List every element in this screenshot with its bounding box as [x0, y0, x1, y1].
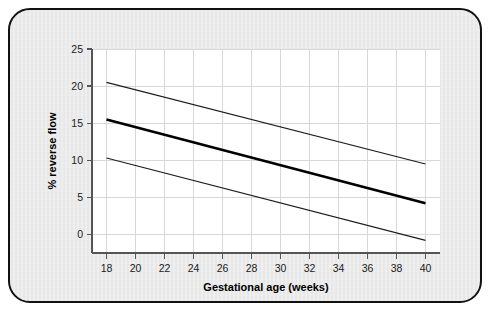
x-axis-tick-labels: 182022242628303234363840: [101, 262, 432, 274]
chart-area: 0510152025 182022242628303234363840 Gest…: [10, 10, 482, 303]
y-axis-ticks: [87, 49, 92, 234]
x-tick-label: 22: [159, 262, 171, 274]
plot-background: [92, 49, 440, 253]
y-axis-title: % reverse flow: [46, 112, 58, 189]
x-tick-label: 34: [333, 262, 345, 274]
y-tick-label: 0: [77, 228, 83, 240]
y-tick-label: 20: [71, 80, 83, 92]
x-tick-label: 18: [101, 262, 113, 274]
x-tick-label: 28: [246, 262, 258, 274]
x-tick-label: 20: [130, 262, 142, 274]
y-tick-label: 10: [71, 154, 83, 166]
x-tick-label: 36: [362, 262, 374, 274]
x-tick-label: 40: [420, 262, 432, 274]
y-tick-label: 15: [71, 117, 83, 129]
line-chart-svg: 0510152025 182022242628303234363840 Gest…: [10, 10, 482, 303]
y-tick-label: 5: [77, 191, 83, 203]
y-axis-tick-labels: 0510152025: [71, 43, 83, 240]
figure-card: 0510152025 182022242628303234363840 Gest…: [8, 8, 482, 303]
x-tick-label: 32: [304, 262, 316, 274]
x-axis-ticks: [107, 253, 426, 259]
x-tick-label: 26: [217, 262, 229, 274]
x-tick-label: 38: [391, 262, 403, 274]
y-tick-label: 25: [71, 43, 83, 55]
x-tick-label: 30: [275, 262, 287, 274]
x-axis-title: Gestational age (weeks): [203, 281, 329, 293]
x-tick-label: 24: [188, 262, 200, 274]
